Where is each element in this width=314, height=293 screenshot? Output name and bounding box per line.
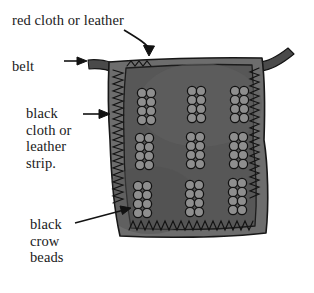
figure-canvas: red cloth or leather belt blackcloth orl… xyxy=(0,0,314,293)
label-line: crow xyxy=(30,233,59,249)
label-black-crow-beads: blackcrowbeads xyxy=(30,216,64,266)
red-cloth-arrowhead xyxy=(144,46,155,57)
belt-arrowhead xyxy=(77,57,87,65)
label-line: black xyxy=(26,105,58,121)
bead-cluster-grid xyxy=(133,86,248,217)
label-line: strip. xyxy=(26,155,56,171)
label-belt: belt xyxy=(12,58,34,75)
label-red-cloth: red cloth or leather xyxy=(12,12,124,29)
label-line: cloth or xyxy=(26,122,72,138)
label-line: black xyxy=(30,216,62,232)
label-line: beads xyxy=(30,249,64,265)
label-black-cloth-strip: blackcloth orleatherstrip. xyxy=(26,105,72,171)
label-line: leather xyxy=(26,138,66,154)
